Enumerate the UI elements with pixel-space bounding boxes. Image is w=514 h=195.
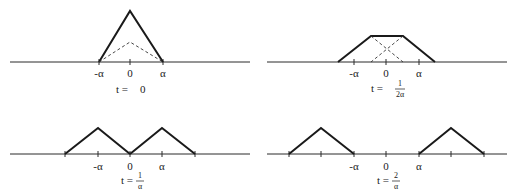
tick-label-alpha: α <box>159 160 165 172</box>
tick-label-alpha: α <box>416 160 422 172</box>
right-moving-pulse <box>130 128 195 154</box>
time-label-value: 0 <box>140 83 146 95</box>
time-fraction-denominator: α <box>138 182 143 191</box>
time-fraction-numerator: 2 <box>394 171 398 180</box>
left-moving-pulse <box>65 128 130 154</box>
right-moving-pulse <box>419 128 484 154</box>
panel-t-one: -α 0 α t = 1 α <box>10 128 250 191</box>
wave-diagram: -α 0 α t = 0 -α 0 α t = 1 2α -α 0 α t = <box>0 0 514 195</box>
superposed-pulse <box>338 36 435 62</box>
left-moving-pulse <box>289 128 354 154</box>
superposed-pulse <box>99 11 163 62</box>
tick-label-alpha: α <box>416 67 422 79</box>
time-fraction-numerator: 1 <box>138 171 142 180</box>
tick-label-neg-alpha: -α <box>349 67 359 79</box>
tick-label-alpha: α <box>160 67 166 79</box>
time-fraction-numerator: 1 <box>398 79 402 88</box>
tick-label-zero: 0 <box>127 67 133 79</box>
time-label-prefix: t = <box>121 174 133 186</box>
panel-t-0: -α 0 α t = 0 <box>10 11 250 95</box>
panel-t-two: -α 0 α t = 2 α <box>267 128 507 191</box>
time-label-prefix: t = <box>371 82 383 94</box>
tick-label-neg-alpha: -α <box>349 160 359 172</box>
panel-t-half: -α 0 α t = 1 2α <box>267 36 507 99</box>
tick-label-neg-alpha: -α <box>94 67 104 79</box>
tick-label-zero: 0 <box>127 160 133 172</box>
time-label-prefix: t = <box>377 174 389 186</box>
tick-label-zero: 0 <box>383 67 389 79</box>
time-fraction-denominator: α <box>394 182 399 191</box>
time-label-prefix: t = <box>116 83 128 95</box>
tick-label-zero: 0 <box>383 160 389 172</box>
time-fraction-denominator: 2α <box>396 90 405 99</box>
tick-label-neg-alpha: -α <box>93 160 103 172</box>
